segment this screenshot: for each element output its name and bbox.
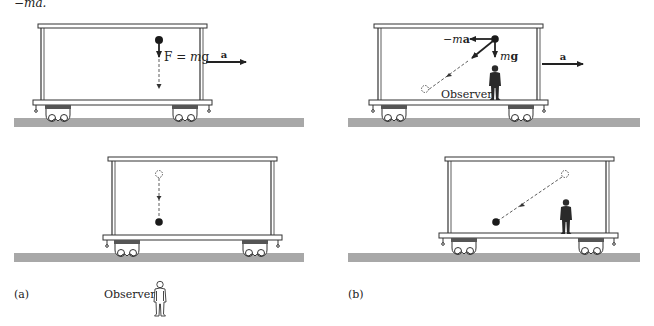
- wheel-truck: [381, 105, 407, 122]
- observer-label: Observer: [441, 88, 493, 101]
- wheel-truck: [508, 105, 534, 122]
- ball: [155, 36, 163, 44]
- boxcar-roof: [374, 24, 543, 28]
- panel-b-top-scene: −ma mg Observer a: [348, 24, 640, 127]
- ball-end-position: [422, 86, 429, 93]
- wheel-truck: [451, 238, 477, 255]
- boxcar-floor: [33, 100, 212, 105]
- panel-a-top-scene: F = mg a: [14, 24, 304, 127]
- pseudo-force-label: −ma: [443, 33, 470, 46]
- header-fragment: −ma.: [14, 0, 46, 10]
- ball: [492, 218, 500, 226]
- ball-start-position: [562, 171, 569, 178]
- panel-b-bottom-scene: (b): [348, 157, 640, 301]
- caption-a: (a): [14, 288, 29, 301]
- observer-outline-figure: [154, 281, 166, 316]
- acceleration-label: a: [560, 51, 567, 62]
- wheel-truck: [578, 238, 604, 255]
- observer-label: Observer: [104, 288, 156, 301]
- resultant-arrow: [472, 41, 493, 58]
- boxcar-roof: [445, 157, 614, 161]
- force-label: F = mg: [164, 50, 209, 64]
- ball: [155, 218, 163, 226]
- fall-path: [499, 177, 562, 220]
- boxcar-roof: [108, 157, 277, 161]
- panel-a-bottom-scene: (a) Observer: [14, 157, 304, 316]
- boxcar-roof: [38, 24, 207, 28]
- boxcar-floor: [103, 235, 282, 240]
- caption-b: (b): [348, 288, 364, 301]
- wheel-truck: [242, 240, 268, 257]
- boxcar-floor: [439, 233, 618, 238]
- observer-silhouette: [560, 199, 572, 234]
- figure-canvas: −ma. F = mg a: [0, 0, 654, 326]
- gravity-label: mg: [500, 50, 518, 63]
- ball-start-position: [156, 171, 163, 178]
- acceleration-label: a: [221, 49, 228, 60]
- wheel-truck: [172, 105, 198, 122]
- wheel-truck: [45, 105, 71, 122]
- wheel-truck: [114, 240, 140, 257]
